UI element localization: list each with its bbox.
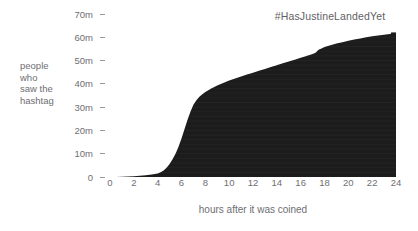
x-axis-tick-label: 2 (122, 177, 146, 188)
x-axis-tick-label: 8 (193, 177, 217, 188)
y-axis-tick: 10m (0, 148, 105, 160)
x-axis-tick-label: 18 (313, 177, 337, 188)
y-axis-tick: 30m (0, 101, 105, 113)
x-axis-tick-label: 24 (384, 177, 408, 188)
y-axis-tick-mark (100, 14, 105, 15)
y-axis-tick: 70m (0, 8, 105, 20)
x-axis-tick-label: 22 (360, 177, 384, 188)
area-series-svg (110, 14, 396, 177)
x-axis-tick-label: 6 (170, 177, 194, 188)
y-axis-tick-mark (100, 60, 105, 61)
y-axis-tick-mark (100, 153, 105, 154)
y-axis-tick-label: 20m (75, 125, 93, 136)
x-axis-caption: hours after it was coined (110, 204, 396, 215)
x-axis-tick-label: 12 (241, 177, 265, 188)
y-axis-tick: 20m (0, 124, 105, 136)
y-axis-tick: 50m (0, 55, 105, 67)
area-series-path (110, 32, 396, 177)
y-axis-tick-mark (100, 107, 105, 108)
y-axis-tick-label: 60m (75, 32, 93, 43)
y-axis-tick-label: 70m (75, 9, 93, 20)
y-axis-tick-label: 40m (75, 78, 93, 89)
x-axis-tick-label: 4 (146, 177, 170, 188)
chart-figure: #HasJustineLandedYet people who saw the … (0, 0, 418, 231)
x-axis-tick-label: 16 (289, 177, 313, 188)
y-axis-tick-label: 30m (75, 102, 93, 113)
x-axis-tick-label: 20 (336, 177, 360, 188)
plot-area (110, 14, 396, 177)
x-axis-tick-label: 14 (265, 177, 289, 188)
y-axis-tick-mark (100, 83, 105, 84)
y-axis-tick-label: 10m (75, 148, 93, 159)
x-axis: 024681012141618202224 (110, 177, 396, 197)
y-axis-tick-label: 50m (75, 55, 93, 66)
y-axis-tick-mark (100, 130, 105, 131)
y-axis: 010m20m30m40m50m60m70m (0, 0, 110, 231)
x-axis-tick-label: 10 (217, 177, 241, 188)
y-axis-tick-label: 0 (88, 172, 93, 183)
y-axis-tick-mark (100, 37, 105, 38)
y-axis-tick: 60m (0, 31, 105, 43)
x-axis-tick-label: 0 (98, 177, 122, 188)
y-axis-tick: 40m (0, 78, 105, 90)
y-axis-tick: 0 (0, 171, 105, 183)
